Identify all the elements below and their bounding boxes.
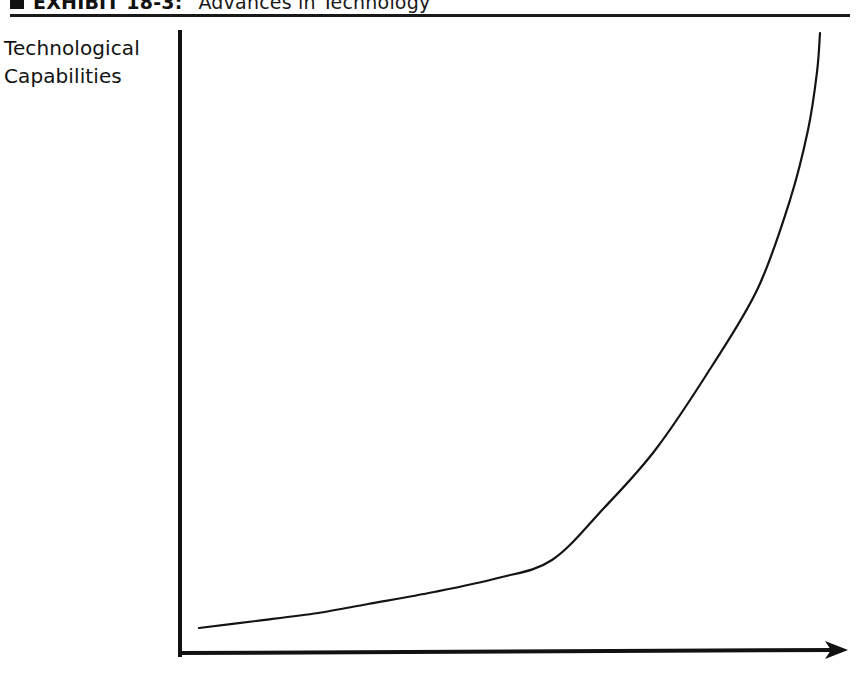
chart-canvas — [0, 0, 860, 684]
exhibit-page: EXHIBIT 18-3: Advances in Technology Tec… — [0, 0, 860, 684]
technology-growth-curve — [199, 33, 820, 628]
x-axis-line — [178, 650, 836, 653]
exponential-growth-chart — [0, 0, 860, 684]
